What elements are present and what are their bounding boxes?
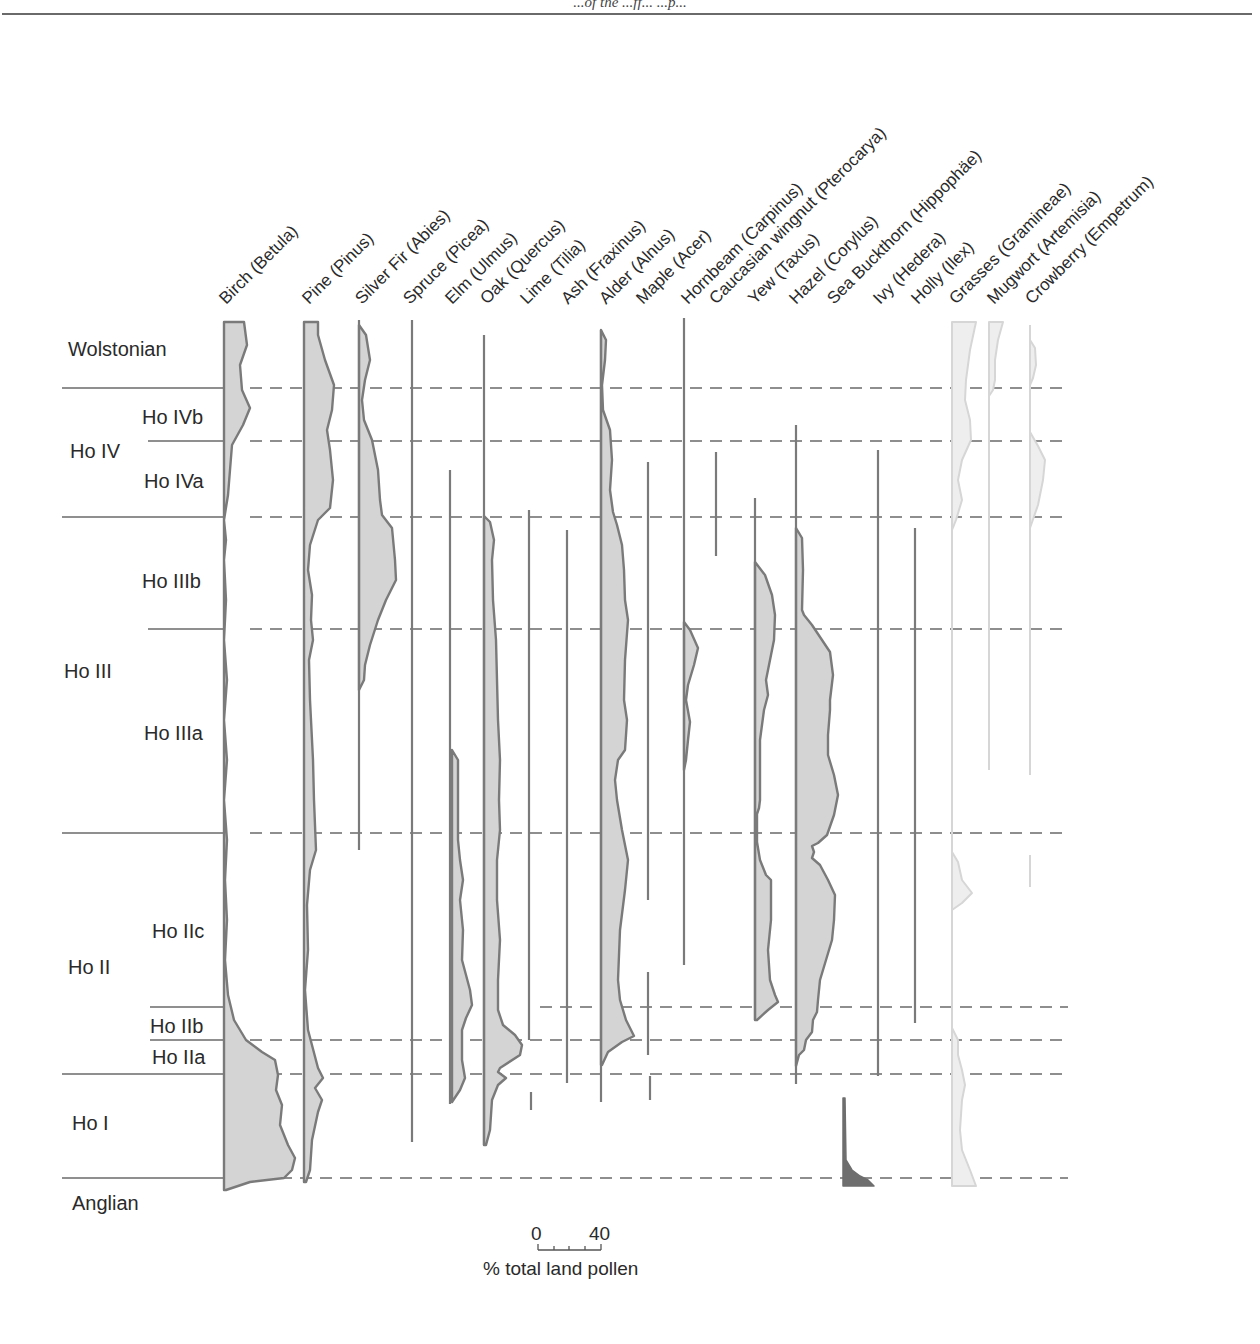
zone-label-ho-i: Ho I bbox=[72, 1112, 109, 1134]
zone-label-ho-iiib: Ho IIIb bbox=[142, 570, 201, 592]
curve-mugwort bbox=[989, 322, 1003, 396]
pollen-diagram: Birch (Betula) Pine (Pinus) Silver Fir (… bbox=[0, 0, 1260, 1344]
zone-label-ho-iv: Ho IV bbox=[70, 440, 121, 462]
curve-oak bbox=[484, 516, 522, 1145]
zone-label-ho-iic: Ho IIc bbox=[152, 920, 204, 942]
taxon-labels: Birch (Betula) Pine (Pinus) Silver Fir (… bbox=[215, 123, 1157, 307]
curve-hornbeam bbox=[684, 622, 698, 770]
zone-label-ho-iiia: Ho IIIa bbox=[144, 722, 204, 744]
pollen-curves bbox=[224, 322, 874, 1190]
curve-elm bbox=[452, 750, 472, 1102]
scale-bar: 0 40 % total land pollen bbox=[483, 1223, 638, 1279]
scale-caption: % total land pollen bbox=[483, 1258, 638, 1279]
scale-zero-label: 0 bbox=[531, 1223, 542, 1244]
taxon-label-birch: Birch (Betula) bbox=[215, 222, 301, 308]
zone-label-ho-ii: Ho II bbox=[68, 956, 110, 978]
zone-label-wolstonian: Wolstonian bbox=[68, 338, 167, 360]
zone-label-ho-iva: Ho IVa bbox=[144, 470, 205, 492]
zone-label-anglian: Anglian bbox=[72, 1192, 139, 1214]
curve-pine bbox=[304, 322, 334, 1182]
curve-hazel bbox=[796, 528, 838, 1066]
zone-label-ho-iib: Ho IIb bbox=[150, 1015, 203, 1037]
presence-lines bbox=[359, 318, 915, 1145]
curve-yew bbox=[755, 562, 778, 1020]
scale-forty-label: 40 bbox=[589, 1223, 610, 1244]
curve-silver-fir bbox=[359, 325, 396, 690]
zone-labels: Wolstonian Ho IVb Ho IV Ho IVa Ho IIIb H… bbox=[64, 338, 206, 1214]
curve-grasses-mid bbox=[952, 852, 972, 910]
curve-birch bbox=[224, 322, 295, 1190]
zone-label-ho-iia: Ho IIa bbox=[152, 1046, 206, 1068]
curve-grasses-lower bbox=[952, 1028, 976, 1186]
curve-crowberry-mid bbox=[1030, 432, 1045, 528]
ghost-curves bbox=[952, 322, 1045, 1186]
zone-label-ho-iii: Ho III bbox=[64, 660, 112, 682]
curve-sea-buckthorn bbox=[843, 1098, 874, 1186]
zone-label-ho-ivb: Ho IVb bbox=[142, 406, 203, 428]
curve-grasses bbox=[952, 322, 976, 530]
